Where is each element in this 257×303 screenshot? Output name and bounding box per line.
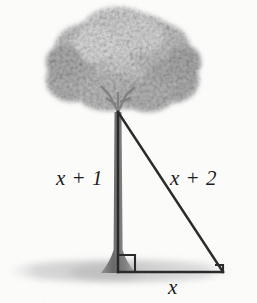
label-hypotenuse: x + 2 [170, 168, 217, 189]
label-vertical-leg: x + 1 [56, 168, 103, 189]
label-horizontal-leg: x [168, 277, 178, 298]
tree-canopy [46, 7, 201, 112]
hypotenuse [118, 112, 223, 272]
diagram-canvas [0, 0, 257, 303]
tree-right-triangle-figure: x + 1 x + 2 x [0, 0, 257, 303]
right-triangle [118, 112, 223, 272]
